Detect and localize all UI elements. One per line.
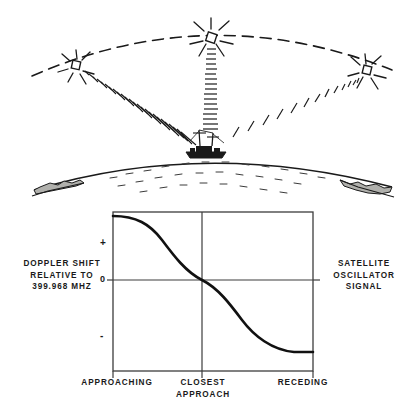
x-tick-closest-line-1: CLOSEST bbox=[165, 377, 241, 389]
signal-beam-left-icon bbox=[85, 71, 196, 145]
signal-beam-center-icon bbox=[203, 49, 218, 129]
satellite-overhead-icon bbox=[190, 18, 233, 56]
earth-horizon-icon bbox=[34, 163, 392, 190]
satellite-pass-illustration bbox=[0, 0, 412, 208]
satellite-signal-line-1: SATELLITE bbox=[323, 258, 405, 270]
y-axis-title: DOPPLER SHIFT RELATIVE TO 399.968 MHZ bbox=[14, 258, 110, 293]
land-right-icon bbox=[340, 180, 392, 194]
y-axis-title-line-1: DOPPLER SHIFT bbox=[14, 258, 110, 270]
doppler-satellite-figure: + 0 - DOPPLER SHIFT RELATIVE TO 399.968 … bbox=[0, 0, 412, 419]
ocean-stipple-icon bbox=[110, 162, 325, 193]
illustration-canvas bbox=[0, 0, 412, 208]
y-axis-title-line-3: 399.968 MHZ bbox=[14, 281, 110, 293]
x-tick-receding: RECEDING bbox=[258, 377, 348, 389]
land-left-icon bbox=[34, 180, 84, 194]
doppler-curve bbox=[113, 216, 313, 352]
x-tick-approaching: APPROACHING bbox=[72, 377, 162, 389]
plot-frame bbox=[113, 212, 313, 371]
x-tick-closest-approach: CLOSEST APPROACH bbox=[165, 377, 241, 401]
y-tick-minus: - bbox=[100, 330, 104, 342]
satellite-oscillator-signal-label: SATELLITE OSCILLATOR SIGNAL bbox=[323, 258, 405, 293]
signal-beam-right-icon bbox=[233, 78, 359, 137]
satellite-signal-line-3: SIGNAL bbox=[323, 281, 405, 293]
satellite-signal-line-2: OSCILLATOR bbox=[323, 270, 405, 282]
y-tick-plus: + bbox=[100, 237, 107, 249]
x-tick-closest-line-2: APPROACH bbox=[165, 389, 241, 401]
y-axis-title-line-2: RELATIVE TO bbox=[14, 270, 110, 282]
